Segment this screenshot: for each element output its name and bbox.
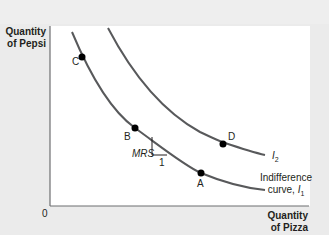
- point-d-label: D: [228, 131, 235, 143]
- mrs-label: MRS: [132, 148, 154, 160]
- i1-label-line1: Indifference: [256, 172, 316, 184]
- point-b-label: B: [124, 131, 131, 143]
- x-axis-title-line2: of Pizza: [258, 222, 308, 234]
- mrs-base-label: 1: [159, 157, 165, 169]
- i1-label: Indifference curve, I1: [256, 172, 316, 200]
- point-a: [198, 170, 205, 177]
- i1-subscript: 1: [300, 190, 304, 197]
- origin-label: 0: [42, 208, 48, 220]
- x-axis-title: Quantity of Pizza: [258, 210, 308, 234]
- y-axis-title-line2: of Pepsi: [2, 38, 46, 50]
- i1-label-line2: curve, I1: [256, 184, 316, 200]
- i2-subscript: 2: [275, 156, 279, 163]
- indifference-curve-i2: [108, 28, 265, 155]
- point-d: [220, 141, 227, 148]
- y-axis-title-line1: Quantity: [2, 26, 46, 38]
- y-axis-title: Quantity of Pepsi: [2, 26, 46, 50]
- i1-label-prefix: curve,: [268, 184, 298, 195]
- i2-label: I2: [272, 150, 279, 166]
- point-a-label: A: [197, 178, 204, 190]
- point-b: [132, 125, 139, 132]
- point-c: [79, 54, 86, 61]
- x-axis-title-line1: Quantity: [258, 210, 308, 222]
- point-c-label: C: [72, 56, 79, 68]
- indifference-curve-i1: [72, 32, 265, 190]
